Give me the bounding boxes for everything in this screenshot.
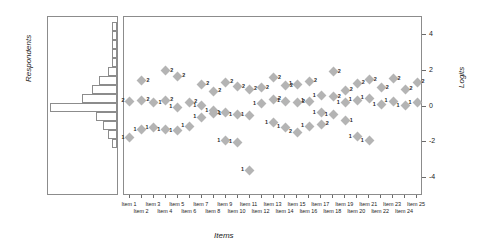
data-point [137, 76, 147, 86]
data-point-label: 1 [361, 138, 364, 143]
item-tick [237, 195, 238, 198]
data-point-label: 1 [193, 103, 196, 108]
data-point-label: 1 [157, 127, 160, 132]
data-point-label: 2 [289, 129, 292, 134]
item-tick-label: Item 19 [331, 201, 357, 207]
data-point-label: 2 [170, 68, 173, 73]
data-point [281, 96, 291, 106]
respondents-axis-title: Respondents [24, 35, 33, 82]
data-point [209, 86, 219, 96]
item-tick-label: Item 18 [319, 208, 345, 214]
data-point [400, 85, 410, 95]
histogram-bar [82, 94, 117, 103]
data-point-label: 2 [410, 86, 413, 91]
data-point [292, 128, 302, 138]
data-point [221, 77, 231, 87]
item-tick [141, 195, 142, 198]
data-point-label: 1 [229, 112, 232, 117]
item-tick [177, 195, 178, 198]
data-point-label: 1 [289, 81, 292, 86]
data-point-label: 1 [325, 112, 328, 117]
item-tick-label: Item 11 [236, 201, 262, 207]
item-tick [189, 195, 190, 198]
logits-tick [422, 34, 426, 35]
data-point [125, 133, 135, 143]
item-tick-label: Item 2 [128, 208, 154, 214]
data-point [412, 77, 422, 87]
logits-tick [422, 106, 426, 107]
data-point [173, 71, 183, 81]
data-point [304, 76, 314, 86]
data-point-label: 1 [313, 110, 316, 115]
data-point-label: 2 [218, 88, 221, 93]
logits-tick [422, 70, 426, 71]
item-tick [213, 195, 214, 198]
item-scatter-panel: 2122111221211212112112112112112122121112… [123, 16, 422, 195]
logits-tick [422, 141, 426, 142]
data-point [364, 75, 374, 85]
wright-map-figure: Respondents 2122111221211212112112112112… [0, 0, 477, 247]
data-point [245, 110, 255, 120]
data-point-label: 1 [121, 135, 124, 140]
data-point-label: 2 [314, 78, 317, 83]
logits-tick-label: -4 [429, 173, 435, 180]
item-tick [296, 195, 297, 198]
histogram-bar [112, 40, 117, 49]
data-point-label: 1 [193, 114, 196, 119]
histogram-bar [112, 49, 117, 58]
data-point-label: 2 [230, 79, 233, 84]
histogram-bar [99, 76, 117, 85]
data-point [197, 112, 207, 122]
item-tick [129, 195, 130, 198]
data-point-label: 1 [301, 98, 304, 103]
data-point [269, 73, 279, 83]
item-tick [165, 195, 166, 198]
item-tick-label: Item 13 [260, 201, 286, 207]
item-tick-label: Item 9 [212, 201, 238, 207]
data-point-label: 1 [409, 100, 412, 105]
data-point-label: 1 [145, 125, 148, 130]
data-point-label: 1 [169, 128, 172, 133]
data-point-label: 1 [253, 101, 256, 106]
item-tick-label: Item 20 [343, 208, 369, 214]
data-point-label: 2 [182, 73, 185, 78]
data-point-label: 1 [241, 112, 244, 117]
histogram-bar [112, 58, 117, 67]
histogram-bar [112, 31, 117, 40]
data-point [185, 121, 195, 131]
item-tick [356, 195, 357, 198]
data-point-label: 1 [361, 95, 364, 100]
data-point-label: 1 [301, 123, 304, 128]
data-point [233, 137, 243, 147]
data-point [352, 78, 362, 88]
item-tick-label: Item 16 [295, 208, 321, 214]
data-point [173, 102, 183, 112]
item-tick-label: Item 3 [140, 201, 166, 207]
data-point [304, 121, 314, 131]
logits-tick-label: -2 [429, 137, 435, 144]
data-point-label: 2 [170, 97, 173, 102]
data-point-label: 1 [385, 98, 388, 103]
respondents-histogram-panel [47, 16, 118, 195]
data-point-label: 2 [338, 69, 341, 74]
data-point [364, 136, 374, 146]
data-point [125, 96, 135, 106]
data-point [340, 116, 350, 126]
data-point-label: 2 [386, 85, 389, 90]
item-tick-label: Item 1 [116, 201, 142, 207]
item-tick [368, 195, 369, 198]
data-point-label: 1 [349, 97, 352, 102]
data-point [340, 85, 350, 95]
histogram-bar [50, 103, 117, 112]
data-point [316, 91, 326, 101]
logits-tick [422, 177, 426, 178]
histogram-bar [112, 139, 117, 148]
data-point-label: 1 [217, 110, 220, 115]
item-tick [332, 195, 333, 198]
data-point-label: 1 [337, 100, 340, 105]
item-tick-label: Item 25 [403, 201, 429, 207]
histogram-bar [108, 130, 117, 139]
item-tick-label: Item 4 [152, 208, 178, 214]
data-point [245, 165, 255, 175]
item-tick-label: Item 24 [391, 208, 417, 214]
